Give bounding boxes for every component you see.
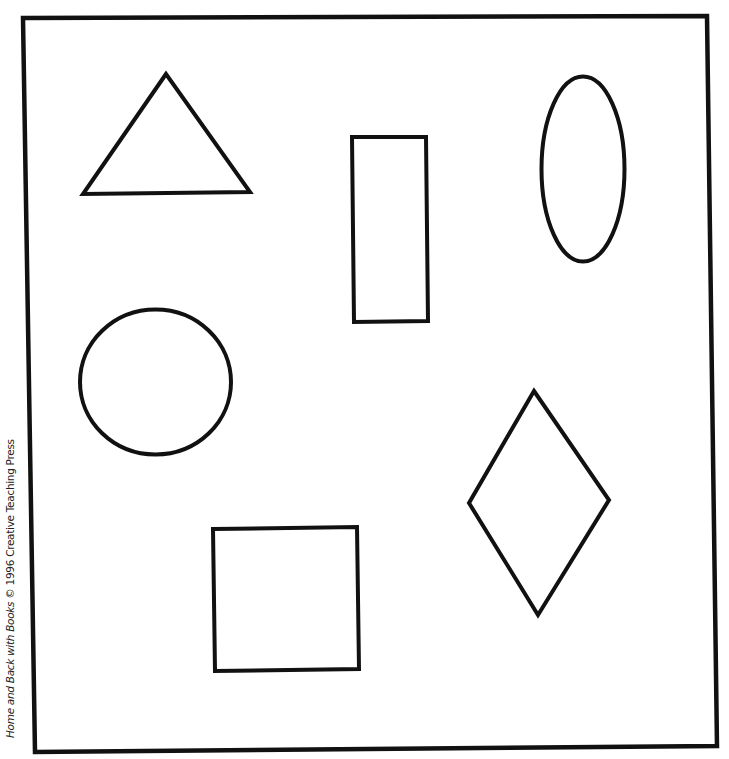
rectangle-shape — [352, 137, 428, 322]
credit-copyright: © 1996 Creative Teaching Press — [4, 439, 16, 601]
copyright-credit: Home and Back with Books © 1996 Creative… — [4, 439, 16, 738]
circle-shape — [80, 310, 231, 455]
shapes-canvas — [0, 0, 729, 759]
triangle-shape — [83, 74, 250, 194]
worksheet-page: Home and Back with Books © 1996 Creative… — [0, 0, 729, 759]
oval-shape — [542, 77, 625, 262]
diamond-shape — [469, 391, 609, 615]
credit-book-title: Home and Back with Books — [4, 602, 16, 738]
page-frame — [23, 16, 717, 752]
square-shape — [213, 527, 359, 671]
